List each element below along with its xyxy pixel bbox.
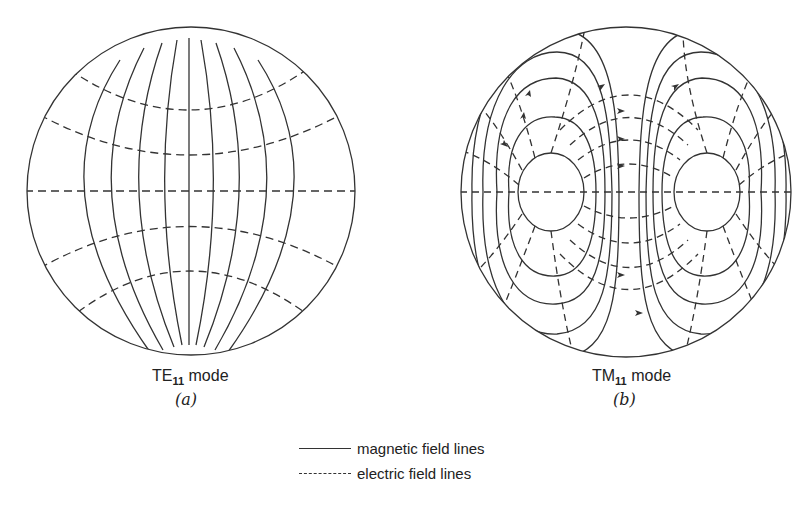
caption-mode-suffix: mode <box>184 367 228 384</box>
panel-b-caption: TM11 mode <box>592 367 671 387</box>
panel-a-caption: TE11 mode <box>152 367 229 387</box>
tm11-mode-panel <box>460 27 798 358</box>
field-line-diagram <box>0 0 810 507</box>
caption-mode-subscript: 11 <box>615 375 627 387</box>
panel-b-label: (b) <box>613 390 636 409</box>
caption-mode-suffix: mode <box>627 367 671 384</box>
legend-electric: electric field lines <box>299 465 471 482</box>
electric-field-lines-a <box>25 70 357 312</box>
te11-mode-panel <box>25 27 357 355</box>
dashed-line-swatch <box>299 473 351 474</box>
magnetic-field-lines-a <box>84 38 294 352</box>
solid-line-swatch <box>299 448 351 449</box>
caption-mode-subscript: 11 <box>172 375 184 387</box>
legend-magnetic: magnetic field lines <box>299 440 485 457</box>
magnetic-field-lines-b <box>472 30 786 358</box>
legend-magnetic-label: magnetic field lines <box>357 440 485 457</box>
caption-mode-prefix: TE <box>152 367 172 384</box>
panel-a-label: (a) <box>175 390 197 409</box>
caption-mode-prefix: TM <box>592 367 615 384</box>
legend-electric-label: electric field lines <box>357 465 471 482</box>
